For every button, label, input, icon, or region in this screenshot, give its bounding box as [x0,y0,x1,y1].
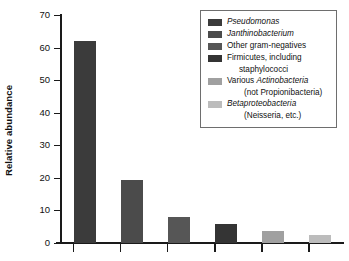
y-axis-tick-label: 0 [26,238,50,248]
legend-item: Various Actinobacteria [208,75,330,86]
y-axis-tick [54,113,61,114]
legend-swatch [208,19,222,26]
legend-label: Betaproteobacteria [227,98,296,109]
x-axis-tick [73,244,75,252]
bar [168,217,190,243]
legend-item: Janthinobacterium [208,28,330,39]
legend: PseudomonasJanthinobacteriumOther gram-n… [200,10,337,128]
bar [215,224,237,243]
legend-item: Firmicutes, including [208,52,330,63]
bar [309,235,331,243]
legend-label: Janthinobacterium [227,28,294,39]
legend-swatch [208,31,222,38]
y-axis-tick-label: 60 [26,43,50,53]
bar [74,41,96,243]
legend-item: Pseudomonas [208,16,330,27]
legend-swatch [208,43,222,50]
bar [262,231,284,243]
legend-label-continuation: staphylococci [208,64,330,75]
y-axis-tick [54,80,61,81]
y-axis-tick-label: 70 [26,10,50,20]
y-axis-tick [54,145,61,146]
y-axis-tick-label: 20 [26,173,50,183]
x-axis-tick [214,244,216,252]
x-axis-tick [308,244,310,252]
legend-label-continuation: (Neisseria, etc.) [208,110,330,121]
y-axis-tick-label: 30 [26,140,50,150]
y-axis-tick [54,243,61,244]
legend-swatch [208,55,222,62]
legend-label-continuation: (not Propionibacteria) [208,87,330,98]
legend-swatch [208,78,222,85]
y-axis-title: Relative abundance [2,0,16,261]
y-axis-tick [54,15,61,16]
y-axis-tick-label: 40 [26,108,50,118]
y-axis-tick-label: 10 [26,205,50,215]
y-axis-tick-label: 50 [26,75,50,85]
legend-item: Other gram-negatives [208,40,330,51]
x-axis-tick [261,244,263,252]
y-axis-tick [54,210,61,211]
legend-label: Various Actinobacteria [227,75,308,86]
y-axis-tick [54,48,61,49]
x-axis-tick [167,244,169,252]
legend-swatch [208,101,222,108]
legend-label: Pseudomonas [227,16,279,27]
bar [121,180,143,244]
y-axis-tick [54,178,61,179]
legend-item: Betaproteobacteria [208,98,330,109]
legend-label: Other gram-negatives [227,40,306,51]
legend-label: Firmicutes, including [227,52,302,63]
x-axis-tick [120,244,122,252]
bar-chart-figure: Relative abundance 010203040506070 Pseud… [0,0,349,261]
